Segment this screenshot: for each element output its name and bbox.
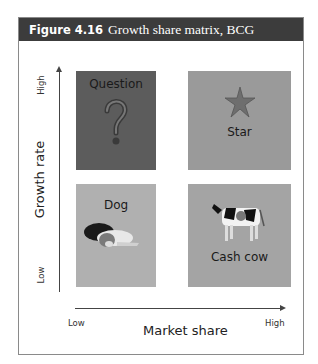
quadrant-label: Question bbox=[89, 77, 143, 91]
quadrant-label: Star bbox=[227, 125, 252, 139]
quadrant-star: Star bbox=[188, 71, 291, 170]
quadrant-label: Cash cow bbox=[211, 250, 268, 264]
quadrant-label: Dog bbox=[104, 198, 128, 212]
dog-icon bbox=[77, 218, 147, 252]
y-axis-low-label: Low bbox=[36, 265, 46, 285]
figure-caption: Growth share matrix, BCG bbox=[108, 22, 254, 38]
question-mark-icon bbox=[101, 95, 131, 147]
x-axis-high-label: High bbox=[265, 318, 285, 328]
star-icon bbox=[223, 85, 257, 119]
quadrant-dog: Dog bbox=[76, 184, 156, 287]
y-axis-title: Growth rate bbox=[32, 140, 47, 220]
x-axis-arrow bbox=[75, 308, 281, 309]
x-axis-low-label: Low bbox=[68, 318, 85, 328]
figure-number: Figure 4.16 bbox=[29, 23, 103, 37]
cow-icon bbox=[210, 196, 270, 246]
x-axis-title: Market share bbox=[143, 323, 228, 338]
y-axis-arrow bbox=[59, 70, 60, 292]
figure-box: Figure 4.16 Growth share matrix, BCG Hig… bbox=[18, 17, 304, 355]
figure-header: Figure 4.16 Growth share matrix, BCG bbox=[19, 18, 303, 41]
quadrant-cash-cow: Cash cow bbox=[188, 184, 291, 287]
y-axis-high-label: High bbox=[36, 75, 46, 95]
quadrant-question: Question bbox=[76, 71, 156, 170]
